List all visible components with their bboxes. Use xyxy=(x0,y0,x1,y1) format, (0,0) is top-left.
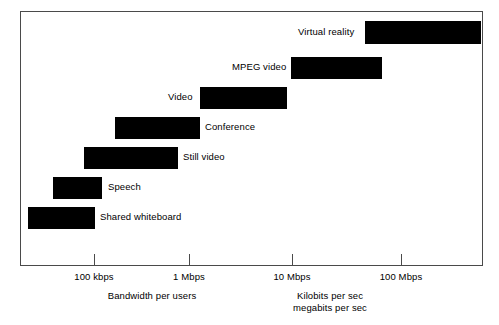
bar-conference xyxy=(115,117,200,139)
bar-still-video xyxy=(84,147,178,169)
axis-tick xyxy=(94,254,95,266)
axis-tick xyxy=(401,254,402,266)
axis-tick-label: 100 kbps xyxy=(74,271,113,282)
bar-label-still-video: Still video xyxy=(183,151,225,162)
bar-label-conference: Conference xyxy=(205,121,255,132)
axis-tick-label: 100 Mbps xyxy=(380,271,423,282)
axis-caption: megabits per sec xyxy=(293,302,367,314)
bar-shared-whiteboard xyxy=(28,207,95,229)
bar-mpeg-video xyxy=(291,57,382,79)
axis-tick xyxy=(292,254,293,266)
bar-label-video: Video xyxy=(168,91,193,102)
bar-label-speech: Speech xyxy=(108,181,141,192)
axis-caption: Kilobits per sec xyxy=(297,290,363,302)
axis-tick-label: 1 Mbps xyxy=(173,271,205,282)
bar-speech xyxy=(53,177,102,199)
bar-label-virtual-reality: Virtual reality xyxy=(298,26,354,37)
axis-caption: Bandwidth per users xyxy=(108,290,197,302)
axis-tick xyxy=(189,254,190,266)
bar-virtual-reality xyxy=(365,21,481,44)
bar-label-mpeg-video: MPEG video xyxy=(232,61,286,72)
bar-label-shared-whiteboard: Shared whiteboard xyxy=(100,211,181,222)
axis-tick-label: 10 Mbps xyxy=(273,271,310,282)
bar-video xyxy=(200,87,287,109)
chart-canvas: Virtual realityMPEG videoVideoConference… xyxy=(0,0,499,325)
